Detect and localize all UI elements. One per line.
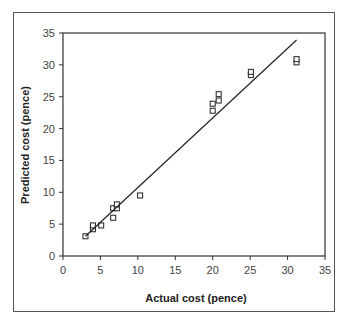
x-axis-title: Actual cost (pence) bbox=[145, 292, 247, 304]
data-point-marker bbox=[294, 57, 299, 62]
x-tick-label: 20 bbox=[207, 264, 219, 276]
y-tick-label: 5 bbox=[49, 218, 55, 230]
x-tick-label: 35 bbox=[319, 264, 331, 276]
scatter-chart: 05101520253035 05101520253035 Actual cos… bbox=[0, 0, 355, 325]
y-tick-label: 0 bbox=[49, 250, 55, 262]
y-axis-ticks: 05101520253035 bbox=[43, 27, 63, 262]
data-point-marker bbox=[138, 193, 143, 198]
x-tick-label: 30 bbox=[281, 264, 293, 276]
y-tick-label: 15 bbox=[43, 154, 55, 166]
x-tick-label: 15 bbox=[169, 264, 181, 276]
x-tick-label: 10 bbox=[132, 264, 144, 276]
data-point-marker bbox=[111, 215, 116, 220]
y-tick-label: 10 bbox=[43, 186, 55, 198]
x-tick-label: 0 bbox=[60, 264, 66, 276]
data-point-marker bbox=[210, 108, 215, 113]
data-point-marker bbox=[210, 101, 215, 106]
y-tick-label: 20 bbox=[43, 123, 55, 135]
y-axis-title: Predicted cost (pence) bbox=[19, 86, 31, 204]
data-point-marker bbox=[248, 69, 253, 74]
x-tick-label: 5 bbox=[97, 264, 103, 276]
x-tick-label: 25 bbox=[244, 264, 256, 276]
data-point-marker bbox=[216, 98, 221, 103]
data-point-marker bbox=[216, 92, 221, 97]
y-tick-label: 30 bbox=[43, 59, 55, 71]
y-tick-label: 25 bbox=[43, 91, 55, 103]
y-tick-label: 35 bbox=[43, 27, 55, 39]
x-axis-ticks: 05101520253035 bbox=[60, 256, 331, 276]
